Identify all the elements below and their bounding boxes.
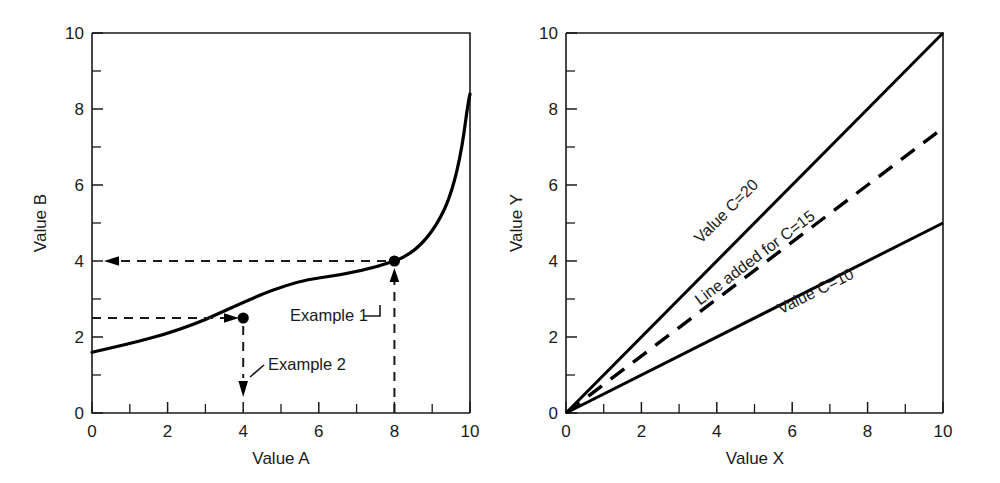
right-y-tick-labels: 0 2 4 6 8 10	[539, 24, 558, 423]
example-1-guide	[104, 256, 399, 413]
left-xtick-8: 8	[390, 422, 399, 441]
left-y-minor-ticks	[92, 71, 101, 375]
arrow-up-icon	[390, 268, 400, 282]
chart-panel-right: 0 2 4 6 8 10 0 2 4 6 8 10 Value X Value …	[500, 0, 1000, 483]
left-ytick-4: 4	[75, 252, 84, 271]
left-ytick-10: 10	[65, 24, 84, 43]
right-xtick-0: 0	[561, 422, 570, 441]
right-x-minor-ticks	[604, 404, 906, 413]
example-2-leader-line	[250, 365, 264, 377]
figure-canvas: 0 2 4 6 8 10 0 2 4 6 8 10 Value A Value …	[0, 0, 1000, 483]
left-yaxis-title: Value B	[31, 194, 50, 252]
right-ytick-4: 4	[549, 252, 558, 271]
right-ytick-6: 6	[549, 176, 558, 195]
right-ytick-2: 2	[549, 328, 558, 347]
left-x-tick-labels: 0 2 4 6 8 10	[87, 422, 479, 441]
series-label-value-c-10: Value C=10	[775, 265, 857, 317]
left-ytick-6: 6	[75, 176, 84, 195]
right-y-minor-ticks	[566, 71, 575, 375]
left-ytick-8: 8	[75, 100, 84, 119]
arrow-left-icon	[104, 256, 119, 266]
example-1-label: Example 1	[290, 306, 368, 324]
left-ytick-0: 0	[75, 404, 84, 423]
right-yaxis-title: Value Y	[507, 194, 526, 252]
left-chart-svg: 0 2 4 6 8 10 0 2 4 6 8 10 Value A Value …	[0, 0, 500, 483]
example-2-guide	[92, 313, 248, 397]
right-xtick-8: 8	[863, 422, 872, 441]
right-ytick-10: 10	[539, 24, 558, 43]
left-xtick-10: 10	[461, 422, 480, 441]
arrow-right-icon	[224, 313, 239, 323]
example-2-label: Example 2	[268, 355, 346, 373]
series-line-value-c-20	[566, 33, 943, 413]
right-xtick-10: 10	[934, 422, 953, 441]
example-2-point-marker	[238, 312, 249, 323]
right-ytick-0: 0	[549, 404, 558, 423]
right-chart-svg: 0 2 4 6 8 10 0 2 4 6 8 10 Value X Value …	[500, 0, 1000, 483]
right-xtick-6: 6	[787, 422, 796, 441]
left-x-minor-ticks	[130, 404, 432, 413]
left-curve-value-b	[92, 94, 470, 352]
left-xtick-2: 2	[163, 422, 172, 441]
series-line-c-15-dashed	[566, 128, 943, 413]
right-x-tick-labels: 0 2 4 6 8 10	[561, 422, 952, 441]
right-xtick-2: 2	[637, 422, 646, 441]
left-ytick-2: 2	[75, 328, 84, 347]
right-xtick-4: 4	[712, 422, 721, 441]
right-ytick-8: 8	[549, 100, 558, 119]
arrow-down-icon	[238, 381, 248, 397]
right-xaxis-title: Value X	[726, 449, 784, 468]
chart-panel-left: 0 2 4 6 8 10 0 2 4 6 8 10 Value A Value …	[0, 0, 500, 483]
left-xtick-6: 6	[314, 422, 323, 441]
left-xaxis-title: Value A	[252, 449, 310, 468]
left-y-tick-labels: 0 2 4 6 8 10	[65, 24, 84, 423]
left-xtick-4: 4	[238, 422, 247, 441]
series-label-value-c-20: Value C=20	[691, 176, 762, 247]
left-xtick-0: 0	[87, 422, 96, 441]
example-1-point-marker	[389, 255, 400, 266]
